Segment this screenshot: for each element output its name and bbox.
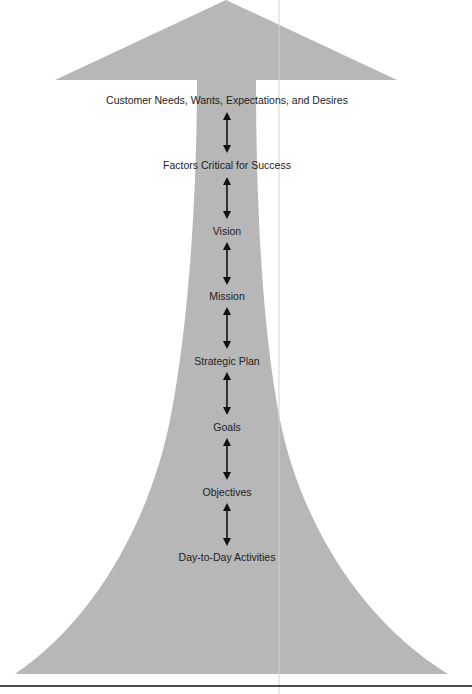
level-label-goals: Goals [213, 421, 240, 433]
level-label-vision: Vision [213, 225, 241, 237]
level-label-day-to-day: Day-to-Day Activities [179, 551, 276, 563]
level-label-customer-needs: Customer Needs, Wants, Expectations, and… [106, 94, 348, 106]
level-label-mission: Mission [209, 290, 245, 302]
level-label-objectives: Objectives [202, 486, 251, 498]
level-label-strategic-plan: Strategic Plan [194, 355, 259, 367]
level-label-critical-factors: Factors Critical for Success [163, 159, 291, 171]
